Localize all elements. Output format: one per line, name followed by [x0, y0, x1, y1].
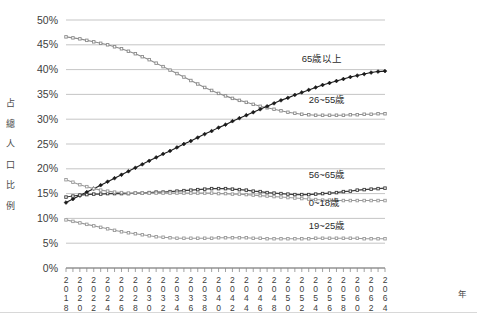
x-tick-digit: 4: [313, 303, 318, 313]
series-inline-labels: 26~55歲65歲以上56~65歲0~18歲19~25歲: [302, 53, 346, 232]
series-marker: [210, 129, 214, 133]
series-marker: [210, 237, 213, 240]
x-tick-label: 2018: [64, 275, 69, 313]
series-marker: [86, 185, 89, 188]
x-tick-digit: 4: [175, 303, 180, 313]
x-tick-label: 2050: [286, 275, 291, 313]
x-tick-label: 2054: [313, 275, 318, 313]
series-marker: [301, 237, 304, 240]
series-marker: [293, 93, 297, 97]
series-marker: [287, 237, 290, 240]
x-tick-digit: 0: [286, 303, 291, 313]
series-marker: [280, 110, 283, 113]
x-tick-digit: 8: [341, 303, 346, 313]
series-marker: [127, 232, 130, 235]
series-marker: [169, 69, 172, 72]
series-marker: [266, 191, 269, 194]
series-label-56~65歲: 56~65歲: [309, 169, 346, 180]
x-tick-digit: 8: [64, 303, 69, 313]
series-marker: [197, 188, 200, 191]
series-1: [64, 69, 387, 204]
series-marker: [106, 180, 110, 184]
series-marker: [259, 237, 262, 240]
series-marker: [342, 199, 345, 202]
y-tick-label: 5%: [43, 237, 58, 249]
series-marker: [231, 188, 234, 191]
series-marker: [294, 197, 297, 200]
series-marker: [217, 126, 221, 130]
series-marker: [217, 92, 220, 95]
series-marker: [280, 192, 283, 195]
series-marker: [363, 113, 366, 116]
series-marker: [384, 112, 387, 115]
series-label-19~25歲: 19~25歲: [309, 220, 346, 231]
y-axis-title-char: 例: [6, 200, 15, 211]
series-marker: [377, 237, 380, 240]
series-marker: [314, 193, 317, 196]
series-marker: [294, 112, 297, 115]
series-marker: [210, 192, 213, 195]
series-marker: [203, 192, 206, 195]
series-marker: [140, 162, 144, 166]
series-marker: [251, 110, 255, 114]
series-marker: [72, 195, 75, 198]
x-tick-digit: 2: [299, 303, 304, 313]
series-marker: [273, 108, 276, 111]
x-tick-label: 2026: [119, 275, 124, 313]
x-tick-label: 2032: [161, 275, 166, 313]
series-marker: [362, 72, 366, 76]
series-marker: [349, 113, 352, 116]
x-tick-label: 2044: [244, 275, 249, 313]
series-marker: [79, 183, 82, 186]
series-marker: [370, 113, 373, 116]
series-marker: [148, 192, 151, 195]
series-marker: [231, 193, 234, 196]
series-marker: [224, 236, 227, 239]
x-tick-digit: 8: [133, 303, 138, 313]
series-marker: [210, 89, 213, 92]
series-marker: [266, 237, 269, 240]
series-marker: [217, 192, 220, 195]
series-marker: [183, 192, 186, 195]
series-marker: [328, 237, 331, 240]
series-marker: [370, 237, 373, 240]
x-tick-digit: 6: [327, 303, 332, 313]
series-marker: [162, 192, 165, 195]
y-tick-label: 10%: [37, 212, 58, 224]
series-marker: [113, 191, 116, 194]
series-marker: [210, 187, 213, 190]
series-marker: [197, 192, 200, 195]
series-marker: [279, 98, 283, 102]
series-marker: [120, 191, 123, 194]
series-marker: [113, 176, 117, 180]
series-marker: [363, 199, 366, 202]
x-tick-label: 2064: [383, 275, 388, 313]
series-marker: [321, 83, 325, 87]
series-marker: [155, 236, 158, 239]
series-marker: [168, 149, 172, 153]
series-marker: [120, 48, 123, 51]
y-tick-label: 15%: [37, 187, 58, 199]
series-marker: [196, 136, 200, 140]
series-marker: [65, 36, 68, 39]
series-marker: [335, 114, 338, 117]
series-marker: [203, 86, 206, 89]
series-marker: [148, 58, 151, 61]
series-label-26~55歲: 26~55歲: [309, 94, 346, 105]
x-tick-digit: 0: [216, 303, 221, 313]
series-marker: [134, 192, 137, 195]
series-marker: [377, 112, 380, 115]
x-tick-digit: 2: [230, 303, 235, 313]
y-axis-title-char: 口: [6, 160, 15, 170]
series-marker: [197, 237, 200, 240]
series-marker: [342, 237, 345, 240]
series-marker: [92, 187, 95, 190]
series-marker: [86, 39, 89, 42]
series-marker: [148, 235, 151, 238]
y-tick-label: 20%: [37, 162, 58, 174]
series-marker: [356, 189, 359, 192]
series-marker: [245, 193, 248, 196]
series-marker: [349, 199, 352, 202]
x-tick-label: 2058: [341, 275, 346, 313]
series-marker: [376, 70, 380, 74]
